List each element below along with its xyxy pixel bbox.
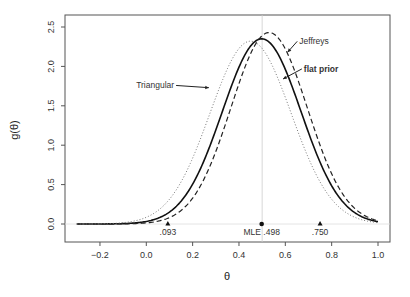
x-axis: −0.20.00.20.40.60.81.0 bbox=[91, 242, 384, 260]
mle-point-marker bbox=[259, 222, 264, 227]
triangle-marker bbox=[165, 221, 170, 226]
curve-jeffreys bbox=[77, 33, 378, 224]
y-tick-label: 2.5 bbox=[46, 21, 56, 34]
marker-label: .093 bbox=[160, 227, 177, 237]
annotation-triangular: Triangular bbox=[136, 80, 174, 90]
y-tick-label: 0.0 bbox=[46, 218, 56, 231]
y-axis-title: g(θ) bbox=[8, 120, 20, 140]
marker-label: .750 bbox=[312, 227, 329, 237]
annotation-arrow bbox=[176, 85, 209, 87]
triangle-marker bbox=[318, 221, 323, 226]
annotation-flat-prior: flat prior bbox=[304, 64, 339, 74]
x-tick-label: 0.2 bbox=[186, 250, 199, 260]
x-tick-label: 0.6 bbox=[279, 250, 292, 260]
x-axis-title: θ bbox=[224, 270, 230, 282]
curve-annotations: Jeffreysflat priorTriangular bbox=[136, 36, 339, 90]
posterior-density-chart: −0.20.00.20.40.60.81.0 0.00.51.01.52.02.… bbox=[0, 0, 410, 297]
point-markers: .093MLE .498.750 bbox=[160, 221, 329, 237]
x-tick-label: 1.0 bbox=[372, 250, 385, 260]
arrowhead-icon bbox=[205, 86, 209, 89]
y-tick-label: 0.5 bbox=[46, 178, 56, 191]
x-tick-label: 0.4 bbox=[233, 250, 246, 260]
density-curves bbox=[77, 33, 378, 224]
reference-lines bbox=[65, 15, 390, 242]
y-tick-label: 2.0 bbox=[46, 60, 56, 73]
marker-label: MLE .498 bbox=[243, 227, 280, 237]
x-tick-label: 0.0 bbox=[140, 250, 153, 260]
y-axis: 0.00.51.01.52.02.5 bbox=[46, 21, 65, 231]
x-tick-label: −0.2 bbox=[91, 250, 109, 260]
annotation-jeffreys: Jeffreys bbox=[299, 36, 329, 46]
y-tick-label: 1.5 bbox=[46, 100, 56, 113]
y-tick-label: 1.0 bbox=[46, 139, 56, 152]
x-tick-label: 0.8 bbox=[325, 250, 338, 260]
plot-frame bbox=[65, 15, 390, 242]
